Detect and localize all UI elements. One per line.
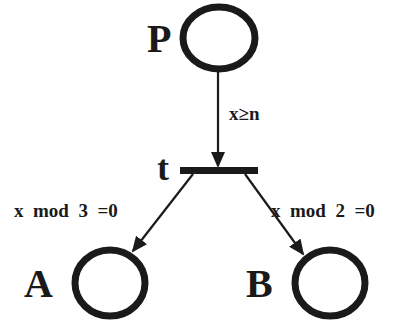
place-p-label: P [147, 16, 171, 61]
transition-t-label: t [157, 148, 169, 188]
arc-t-to-b-guard: x mod 2 =0 [271, 200, 375, 221]
transition-t: t [157, 148, 258, 188]
arc-t-to-b: x mod 2 =0 [245, 174, 375, 254]
place-a-label: A [24, 261, 53, 306]
arc-t-to-a-guard: x mod 3 =0 [14, 200, 118, 221]
arc-p-to-t: x≥n [218, 72, 260, 166]
place-b: B [246, 250, 365, 316]
place-a: A [24, 250, 145, 316]
place-b-label: B [246, 261, 273, 306]
place-b-circle [295, 250, 365, 316]
arc-p-to-t-guard: x≥n [229, 103, 260, 124]
petri-net-diagram: P x≥n t x mod 3 =0 x mod 2 =0 A B [0, 0, 420, 330]
place-a-circle [75, 250, 145, 316]
place-p: P [147, 7, 255, 69]
transition-t-bar [180, 167, 258, 174]
place-p-circle [183, 7, 255, 69]
